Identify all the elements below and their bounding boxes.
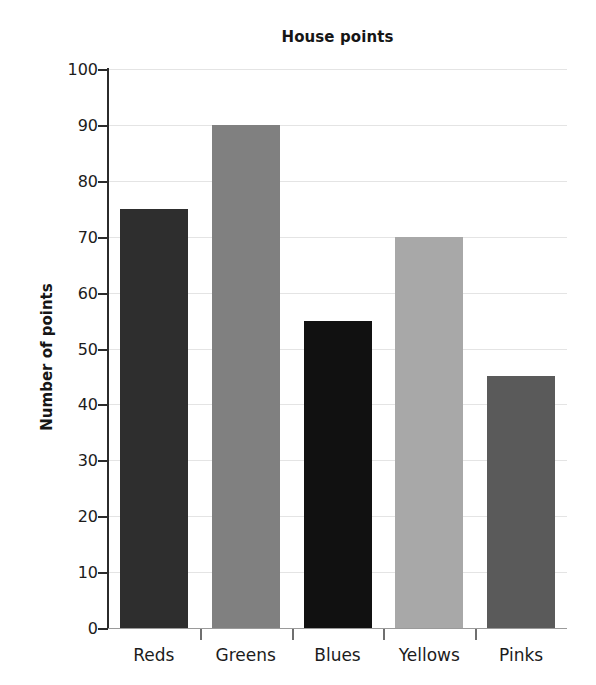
y-axis-tick-label: 80 (40, 171, 98, 190)
y-axis-tick-label: 30 (40, 451, 98, 470)
x-axis-label-pinks: Pinks (475, 645, 567, 665)
y-axis-tick (98, 181, 108, 183)
x-axis-label-greens: Greens (200, 645, 292, 665)
x-axis-tick (383, 629, 385, 640)
y-axis-tick (98, 237, 108, 239)
y-axis-tick-label: 90 (40, 115, 98, 134)
y-axis-tick-label: 0 (40, 619, 98, 638)
x-axis-tick (200, 629, 202, 640)
x-axis-tick (475, 629, 477, 640)
x-axis-label-yellows: Yellows (383, 645, 475, 665)
y-axis-tick-label: 60 (40, 283, 98, 302)
y-axis-tick-group: 0102030405060708090100 (30, 0, 98, 685)
x-axis-label-blues: Blues (292, 645, 384, 665)
y-axis-tick-label: 20 (40, 507, 98, 526)
y-axis-tick (98, 404, 108, 406)
y-axis-tick (98, 69, 108, 71)
y-axis-tick-label: 70 (40, 227, 98, 246)
bar-pinks (487, 376, 555, 628)
y-axis-tick (98, 460, 108, 462)
y-axis-tick (98, 293, 108, 295)
y-axis-tick (98, 125, 108, 127)
y-axis-tick-label: 40 (40, 395, 98, 414)
bar-reds (120, 209, 188, 628)
bar-chart: House points Number of points 0102030405… (0, 0, 596, 685)
gridline (108, 125, 567, 126)
bar-yellows (395, 237, 463, 628)
y-axis-tick-label: 100 (40, 60, 98, 79)
y-axis-tick (98, 516, 108, 518)
chart-title: House points (108, 28, 567, 46)
y-axis-tick (98, 349, 108, 351)
y-axis-tick-label: 50 (40, 339, 98, 358)
bar-greens (212, 125, 280, 628)
bar-blues (304, 321, 372, 628)
x-axis-label-reds: Reds (108, 645, 200, 665)
x-axis-line (107, 628, 567, 629)
y-axis-tick (98, 572, 108, 574)
x-axis-tick (292, 629, 294, 640)
gridline (108, 69, 567, 70)
plot-area (108, 69, 567, 628)
gridline (108, 181, 567, 182)
y-axis-tick (98, 628, 108, 630)
y-axis-tick-label: 10 (40, 563, 98, 582)
